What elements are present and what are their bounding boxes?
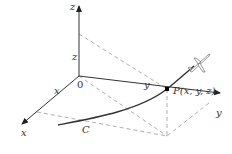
origin-label: 0 — [77, 79, 83, 90]
3d-coordinate-diagram: z z 0 x x y y P(x, y, z) C — [0, 0, 232, 154]
point-p-label: P(x, y, z) — [172, 85, 216, 96]
y-point-to-floor-dashed — [167, 103, 209, 136]
point-p — [165, 87, 169, 91]
y-axis-label: y — [215, 107, 222, 118]
x-length-label: x — [54, 85, 60, 96]
z-height-label: z — [71, 51, 78, 62]
x-axis-label: x — [21, 127, 27, 138]
curve-c-label: C — [82, 124, 90, 135]
airplane-icon — [188, 54, 210, 72]
z-axis-label: z — [69, 1, 76, 12]
x-axis — [22, 76, 79, 124]
y-length-label: y — [143, 79, 150, 90]
axes — [22, 6, 220, 124]
z-to-p-dashed — [79, 34, 167, 89]
